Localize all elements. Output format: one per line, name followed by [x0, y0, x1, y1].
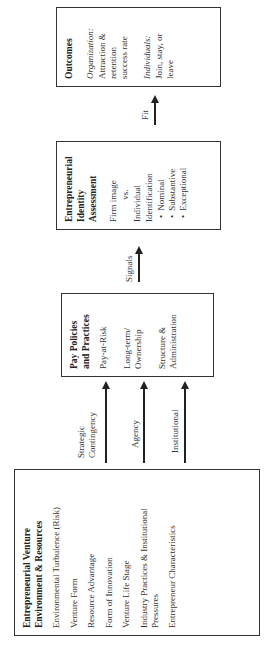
outcomes-box: Outcomes Organization: Attraction & rete… — [56, 7, 221, 87]
arrow-label-agency: Agency — [130, 420, 141, 448]
outcomes-org-text: Attraction & retention success rate — [97, 21, 130, 79]
pay-item-structure: Structure & Administration — [157, 307, 179, 369]
arrow-label-fit: Fit — [140, 110, 151, 120]
arrow-label-strategic-contingency: Strategic Contingency — [76, 378, 97, 458]
env-item-form-innovation: Form of Innovation — [104, 476, 115, 628]
title-line: and Practices — [80, 300, 92, 369]
env-item-life-stage: Venture Life Stage — [121, 476, 132, 628]
arrow-label-institutional: Institutional — [170, 410, 181, 454]
arrow-label-signals: Signals — [124, 255, 135, 282]
identity-individual: Individual — [132, 148, 143, 222]
pay-box-title: Pay Policies and Practices — [68, 300, 92, 369]
env-item-resource-advantage: Resource Advantage — [86, 476, 97, 628]
arrow-institutional — [184, 383, 186, 463]
pay-item-long-term: Long-term/ Ownership — [122, 314, 144, 369]
arrow-agency — [143, 383, 145, 463]
identity-vs: vs. — [120, 167, 131, 222]
title-line: Environment & Resources — [33, 476, 45, 628]
identity-box-title: Entrepreneurial Identity Assessment — [63, 148, 99, 222]
identity-bullet-nominal: Nominal — [156, 148, 167, 222]
arrow-signals — [138, 248, 140, 282]
environment-resources-box: Entrepreneurial Venture Environment & Re… — [14, 469, 260, 636]
identity-identification: Identification — [144, 148, 155, 222]
title-line: Entrepreneurial Venture — [21, 476, 33, 628]
pay-item-pay-at-risk: Pay-at-Risk — [98, 300, 109, 369]
arrow-strategic-contingency — [105, 383, 107, 463]
title-line: Entrepreneurial — [63, 148, 75, 222]
title-line: Identity — [75, 148, 87, 222]
outcomes-ind-label: Individuals: — [142, 14, 153, 79]
env-item-entrepreneur-characteristics: Entrepreneur Characteristics — [167, 476, 178, 628]
identity-bullet-substantive: Substantive — [167, 148, 178, 222]
env-item-industry-practices: Industry Practices & Institutional Press… — [139, 488, 161, 628]
identity-assessment-box: Entrepreneurial Identity Assessment Firm… — [56, 141, 221, 230]
env-item-turbulence: Environmental Turbulence (Risk) — [51, 476, 62, 628]
env-item-venture-form: Venture Form — [69, 476, 80, 628]
environment-box-title: Entrepreneurial Venture Environment & Re… — [21, 476, 45, 628]
pay-policies-box: Pay Policies and Practices Pay-at-Risk L… — [61, 293, 214, 377]
title-line: Assessment — [87, 148, 99, 222]
outcomes-ind-text: Join, stay, or leave — [154, 21, 176, 79]
arrow-fit — [154, 97, 156, 125]
outcomes-org-label: Organization: — [85, 14, 96, 79]
identity-bullet-exceptional: Exceptional — [178, 148, 189, 222]
diagram-canvas: Entrepreneurial Venture Environment & Re… — [0, 0, 268, 663]
identity-firm-image: Firm image — [108, 148, 119, 222]
outcomes-title: Outcomes — [63, 14, 75, 79]
title-line: Pay Policies — [68, 300, 80, 369]
